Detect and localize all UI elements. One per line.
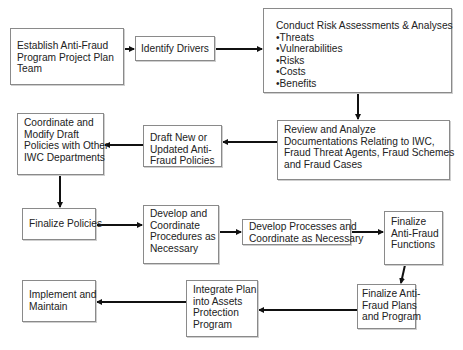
- node-identify: Identify Drivers: [135, 36, 215, 61]
- node-text: Documentations Relating to IWC,: [284, 136, 443, 148]
- node-text: Coordinate and: [24, 117, 97, 129]
- node-text: Finalize Policies: [29, 218, 102, 230]
- node-text: Develop Processes and: [249, 221, 344, 233]
- node-text: Necessary: [150, 243, 212, 255]
- node-text: Fraud Policies: [150, 155, 215, 167]
- arrow-finalize-functions-to-finalize-plans: [401, 265, 405, 283]
- node-text: Functions: [391, 239, 436, 251]
- node-text: into Assets: [193, 296, 251, 308]
- node-text: Updated Anti-: [150, 144, 215, 156]
- node-text: Coordinate as Necessary: [249, 233, 344, 245]
- node-text: Fraud Threat Agents, Fraud Schemes: [284, 147, 443, 159]
- node-integrate: Integrate Plan into Assets Protection Pr…: [186, 280, 258, 337]
- node-text: Fraud Plans: [362, 300, 411, 312]
- node-text: Program: [193, 319, 251, 331]
- bullet-risks: •Risks: [276, 55, 445, 67]
- node-implement: Implement and Maintain: [22, 280, 96, 322]
- node-finalize-policies: Finalize Policies: [22, 208, 96, 240]
- node-conduct: Conduct Risk Assessments & Analyses •Thr…: [263, 8, 452, 93]
- node-text: Anti-Fraud: [391, 228, 436, 240]
- node-develop-procedures: Develop and Coordinate Procedures as Nec…: [143, 205, 219, 264]
- bullet-benefits: •Benefits: [276, 78, 445, 90]
- bullet-threats: •Threats: [276, 32, 445, 44]
- node-establish: Establish Anti-Fraud Program Project Pla…: [10, 28, 124, 85]
- node-coordinate: Coordinate and Modify Draft Policies wit…: [17, 113, 104, 175]
- node-text: Modify Draft: [24, 129, 97, 141]
- node-text: Procedures as: [150, 231, 212, 243]
- node-text: Implement and: [29, 289, 89, 301]
- node-text: Identify Drivers: [141, 43, 209, 55]
- node-text: Develop and: [150, 208, 212, 220]
- node-text: Maintain: [29, 301, 89, 313]
- node-finalize-plans: Finalize Anti- Fraud Plans and Program: [357, 284, 416, 329]
- node-text: Review and Analyze: [284, 124, 443, 136]
- node-text: Draft New or: [150, 132, 215, 144]
- node-text: IWC Departments: [24, 152, 97, 164]
- node-text: Protection: [193, 307, 251, 319]
- node-text: Finalize: [391, 216, 436, 228]
- node-text: and Program: [362, 311, 411, 323]
- node-text: Conduct Risk Assessments & Analyses: [276, 20, 445, 32]
- node-text: Integrate Plan: [193, 284, 251, 296]
- node-text: Coordinate: [150, 220, 212, 232]
- node-text: Program Project Plan: [17, 52, 117, 64]
- node-develop-processes: Develop Processes and Coordinate as Nece…: [242, 219, 351, 245]
- node-text: Finalize Anti-: [362, 288, 411, 300]
- node-review: Review and Analyze Documentations Relati…: [277, 120, 450, 180]
- node-draft: Draft New or Updated Anti- Fraud Policie…: [143, 125, 222, 167]
- bullet-vulnerabilities: •Vulnerabilities: [276, 43, 445, 55]
- node-text: Establish Anti-Fraud: [17, 40, 117, 52]
- node-finalize-functions: Finalize Anti-Fraud Functions: [384, 211, 443, 265]
- node-text: and Fraud Cases: [284, 159, 443, 171]
- node-text: Team: [17, 63, 117, 75]
- bullet-costs: •Costs: [276, 66, 445, 78]
- node-text: Policies with Other: [24, 140, 97, 152]
